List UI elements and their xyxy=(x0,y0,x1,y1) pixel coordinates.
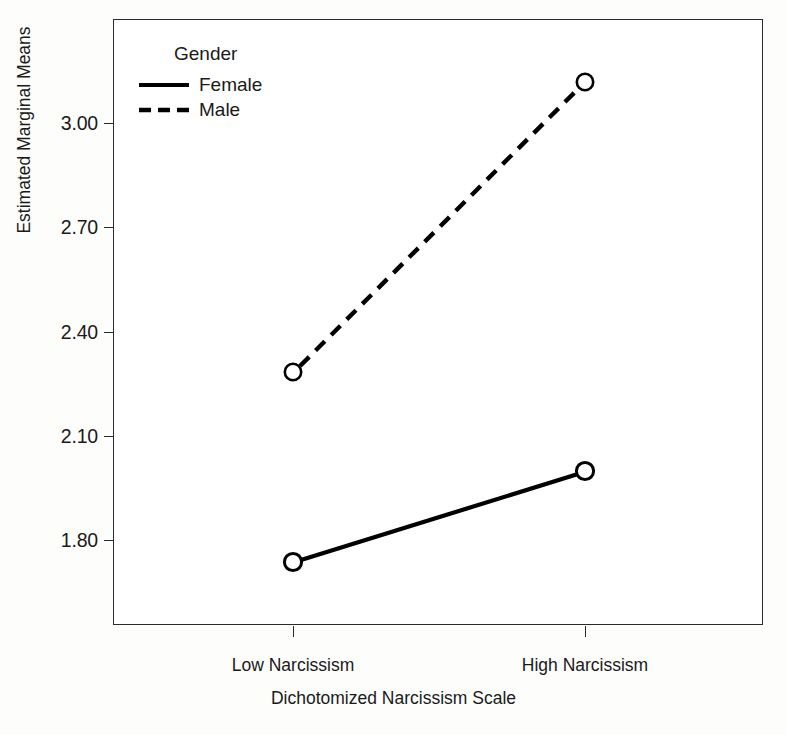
x-tick-mark xyxy=(293,626,294,637)
x-axis-title: Dichotomized Narcissism Scale xyxy=(0,688,787,709)
legend-title: Gender xyxy=(174,43,348,65)
legend-item-male: Male xyxy=(138,97,348,122)
y-tick-mark xyxy=(104,123,113,124)
legend: Gender Female Male xyxy=(138,43,348,122)
legend-item-female: Female xyxy=(138,72,348,97)
y-tick-mark xyxy=(104,436,113,437)
y-tick-label-240: 2.40 xyxy=(0,321,98,344)
legend-swatch-dashed-line xyxy=(138,103,190,117)
x-tick-label-high-narcissism: High Narcissism xyxy=(455,655,715,676)
x-tick-mark xyxy=(585,626,586,637)
y-tick-mark xyxy=(104,227,113,228)
legend-swatch-solid-line xyxy=(138,78,190,92)
legend-label-female: Female xyxy=(199,74,262,96)
y-tick-mark xyxy=(104,332,113,333)
y-tick-label-210: 2.10 xyxy=(0,425,98,448)
x-tick-label-low-narcissism: Low Narcissism xyxy=(163,655,423,676)
y-tick-label-180: 1.80 xyxy=(0,529,98,552)
y-tick-mark xyxy=(104,540,113,541)
figure-canvas: 3.00 2.70 2.40 2.10 1.80 Estimated Margi… xyxy=(0,0,787,735)
y-axis-title: Estimated Marginal Means xyxy=(14,10,35,250)
legend-label-male: Male xyxy=(199,99,240,121)
